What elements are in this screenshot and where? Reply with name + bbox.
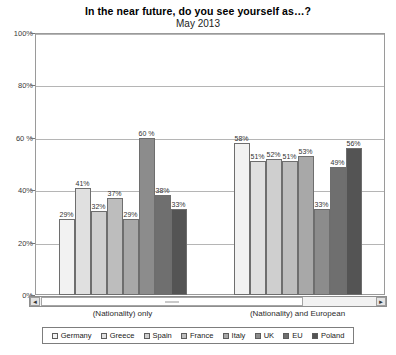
chart-container: In the near future, do you see yourself … bbox=[0, 0, 396, 355]
bar-value-label: 60 % bbox=[135, 130, 159, 137]
bar-italy-group-1 bbox=[123, 219, 139, 295]
legend-item-germany[interactable]: Germany bbox=[52, 331, 92, 340]
chart-title: In the near future, do you see yourself … bbox=[0, 5, 396, 17]
bar-france-group-2 bbox=[282, 161, 298, 295]
legend-label: France bbox=[190, 331, 213, 340]
legend-item-greece[interactable]: Greece bbox=[101, 331, 135, 340]
legend-label: Spain bbox=[153, 331, 172, 340]
y-tick-label-80: 80% bbox=[3, 81, 33, 90]
legend-swatch-icon bbox=[312, 333, 318, 339]
bar-uk-group-1 bbox=[139, 138, 155, 295]
bar-poland-group-1 bbox=[171, 209, 187, 295]
legend-item-france[interactable]: France bbox=[181, 331, 213, 340]
y-tick-label-100: 100% bbox=[3, 29, 33, 38]
bar-germany-group-2 bbox=[234, 143, 250, 295]
scroll-left-arrow-icon[interactable]: ◄ bbox=[30, 297, 40, 306]
legend-item-uk[interactable]: UK bbox=[255, 331, 274, 340]
chart-subtitle: May 2013 bbox=[0, 18, 396, 29]
bar-italy-group-2 bbox=[298, 156, 314, 295]
bar-greece-group-2 bbox=[250, 161, 266, 295]
bar-group-1: 29%41%32%37%29%60 %38%33% bbox=[35, 33, 210, 295]
legend-label: UK bbox=[264, 331, 274, 340]
legend-item-spain[interactable]: Spain bbox=[144, 331, 172, 340]
legend-item-eu[interactable]: EU bbox=[283, 331, 302, 340]
legend-swatch-icon bbox=[181, 333, 187, 339]
bars-layer: 29%41%32%37%29%60 %38%33%58%51%52%51%53%… bbox=[35, 33, 385, 295]
bar-value-label: 37% bbox=[103, 190, 127, 197]
legend-swatch-icon bbox=[52, 333, 58, 339]
x-category-label-2: (Nationality) and European bbox=[210, 309, 385, 318]
bar-value-label: 33% bbox=[167, 201, 191, 208]
bar-value-label: 38% bbox=[151, 187, 175, 194]
bar-uk-group-2 bbox=[314, 209, 330, 295]
legend-label: Poland bbox=[321, 331, 344, 340]
legend-swatch-icon bbox=[223, 333, 229, 339]
legend-swatch-icon bbox=[144, 333, 150, 339]
bar-spain-group-1 bbox=[91, 211, 107, 295]
bar-spain-group-2 bbox=[266, 159, 282, 295]
bar-poland-group-2 bbox=[346, 148, 362, 295]
bar-value-label: 56% bbox=[342, 140, 366, 147]
legend-label: Germany bbox=[61, 331, 92, 340]
y-tick-label-20: 20% bbox=[3, 239, 33, 248]
legend-item-poland[interactable]: Poland bbox=[312, 331, 344, 340]
legend-swatch-icon bbox=[283, 333, 289, 339]
legend-label: EU bbox=[292, 331, 302, 340]
legend-swatch-icon bbox=[255, 333, 261, 339]
horizontal-scrollbar[interactable]: ◄ ► bbox=[29, 296, 387, 307]
x-category-label-1: (Nationality) only bbox=[35, 309, 210, 318]
bar-eu-group-1 bbox=[155, 195, 171, 295]
legend-item-italy[interactable]: Italy bbox=[223, 331, 246, 340]
bar-value-label: 53% bbox=[294, 148, 318, 155]
bar-value-label: 41% bbox=[71, 180, 95, 187]
bar-value-label: 58% bbox=[230, 135, 254, 142]
scrollbar-thumb[interactable] bbox=[41, 297, 303, 306]
legend-label: Greece bbox=[110, 331, 135, 340]
scroll-right-arrow-icon[interactable]: ► bbox=[376, 297, 386, 306]
y-tick-label-40: 40% bbox=[3, 186, 33, 195]
legend-swatch-icon bbox=[101, 333, 107, 339]
bar-group-2: 58%51%52%51%53%33%49%56% bbox=[210, 33, 385, 295]
scrollbar-thumb-grip bbox=[165, 301, 179, 303]
legend-label: Italy bbox=[232, 331, 246, 340]
bar-eu-group-2 bbox=[330, 167, 346, 295]
chart-legend: GermanyGreeceSpainFranceItalyUKEUPoland bbox=[42, 327, 354, 344]
bar-germany-group-1 bbox=[59, 219, 75, 295]
y-tick-label-60: 60 % bbox=[3, 134, 33, 143]
